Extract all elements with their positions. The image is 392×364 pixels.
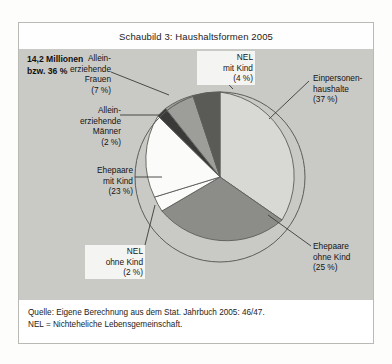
- leader-line-einpersonenhaushalte: [269, 81, 309, 119]
- pie-chart: 14,2 Millionen bzw. 36 % Allein- erziehe…: [19, 49, 373, 300]
- label-value: (4 %): [199, 73, 253, 84]
- label-line-1: NEL: [199, 52, 253, 63]
- label-line-2: erziehende: [29, 116, 121, 127]
- chart-title: Schaubild 3: Haushaltsformen 2005: [119, 31, 273, 42]
- label-line-2: ohne Kind: [87, 257, 143, 268]
- chart-title-band: Schaubild 3: Haushaltsformen 2005: [19, 23, 373, 49]
- label-alleinerziehende-frauen: Allein- erziehende Frauen (7 %): [19, 53, 111, 95]
- label-line-3: Frauen: [19, 74, 111, 85]
- label-line-2: ohne Kind: [313, 252, 373, 263]
- figure-footer: Quelle: Eigene Berechnung aus dem Stat. …: [19, 300, 373, 343]
- label-line-1: Allein-: [19, 53, 111, 64]
- label-ehepaare-ohne-kind: Ehepaare ohne Kind (25 %): [313, 241, 373, 273]
- label-line-1: NEL: [87, 246, 143, 257]
- label-value: (23 %): [45, 186, 133, 197]
- label-line-3: Männer: [29, 126, 121, 137]
- label-line-1: Allein-: [29, 105, 121, 116]
- footer-source: Quelle: Eigene Berechnung aus dem Stat. …: [28, 307, 364, 319]
- chart-panel: 14,2 Millionen bzw. 36 % Allein- erziehe…: [19, 49, 373, 300]
- label-value: (25 %): [313, 262, 373, 273]
- label-line-2: erziehende: [19, 64, 111, 75]
- footer-abbreviation: NEL = Nichteheliche Lebensgemeinschaft.: [28, 319, 364, 331]
- label-value: (7 %): [19, 85, 111, 96]
- label-value: (2 %): [29, 137, 121, 148]
- label-line-2: mit Kind: [45, 176, 133, 187]
- leader-line-alleinerziehende-frauen: [111, 72, 169, 95]
- leader-line-ehepaare-ohne-kind: [268, 215, 311, 246]
- label-line-2: mit Kind: [199, 63, 253, 74]
- leader-line-nel-ohne-kind: [145, 205, 155, 245]
- label-line-2: haushalte: [313, 84, 373, 95]
- label-ehepaare-mit-kind: Ehepaare mit Kind (23 %): [45, 165, 133, 197]
- label-line-1: Einpersonen-: [313, 73, 373, 84]
- label-einpersonenhaushalte: Einpersonen- haushalte (37 %): [313, 73, 373, 105]
- label-line-1: Ehepaare: [45, 165, 133, 176]
- label-value: (37 %): [313, 94, 373, 105]
- label-line-1: Ehepaare: [313, 241, 373, 252]
- label-alleinerziehende-maenner: Allein- erziehende Männer (2 %): [29, 105, 121, 147]
- label-nel-mit-kind: NEL mit Kind (4 %): [197, 51, 255, 85]
- label-value: (2 %): [87, 267, 143, 278]
- label-nel-ohne-kind: NEL ohne Kind (2 %): [85, 245, 145, 279]
- figure-root: Schaubild 3: Haushaltsformen 2005: [0, 0, 392, 364]
